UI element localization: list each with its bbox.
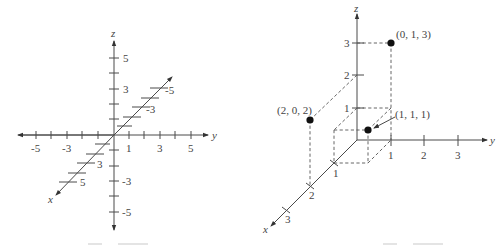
x-tick-label: 2: [309, 189, 315, 201]
point-0-1-3: [387, 39, 394, 46]
y-tick-label: 1: [126, 142, 132, 154]
point-2-0-2: [306, 116, 313, 123]
pointer-arrow: [374, 117, 395, 128]
z-tick-label: 1: [344, 102, 350, 114]
z-tick-label: 2: [344, 69, 350, 81]
caption-fragment: [88, 243, 102, 245]
y-tick-label: 5: [188, 142, 194, 154]
y-tick-label: 2: [421, 149, 427, 161]
x-tick-label: 1: [333, 167, 339, 179]
caption-fragment: [413, 243, 443, 245]
z-tick-label: 3: [344, 37, 350, 49]
z-tick-label: -3: [122, 175, 132, 187]
y-tick-label: 3: [157, 142, 163, 154]
x-axis: [271, 140, 357, 226]
y-tick-label: 1: [388, 149, 394, 161]
z-axis-label: z: [110, 27, 116, 39]
z-axis-ticks: [352, 43, 364, 108]
left-figure: -5 -3 1 3 5 y 5 3 -3 -5 z: [18, 27, 217, 230]
point-label: (2, 0, 2): [277, 104, 312, 117]
y-axis-label: y: [211, 129, 217, 141]
x-tick-label: 3: [97, 158, 103, 170]
x-tick-label: -3: [146, 103, 156, 115]
caption-fragment: [383, 243, 397, 245]
x-tick-label: -5: [165, 84, 175, 96]
figure-canvas: -5 -3 1 3 5 y 5 3 -3 -5 z: [0, 0, 499, 247]
point-label: (1, 1, 1): [395, 108, 430, 121]
caption-fragment: [118, 243, 148, 245]
point-1-1-1: [364, 126, 371, 133]
right-figure: z y x 1 2 3 1 2 3 1 2 3: [262, 2, 495, 235]
point-label: (0, 1, 3): [396, 28, 431, 41]
x-tick-label: 3: [285, 213, 291, 225]
y-tick-label: 3: [455, 149, 461, 161]
projection-lines: [310, 43, 391, 186]
y-tick-label: -5: [31, 142, 41, 154]
x-axis-label: x: [47, 193, 53, 205]
x-tick-label: 5: [80, 176, 86, 188]
z-tick-label: 3: [123, 83, 129, 95]
z-tick-label: 5: [123, 52, 129, 64]
z-tick-label: -5: [122, 206, 132, 218]
y-tick-label: -3: [62, 142, 72, 154]
y-axis-label: y: [489, 134, 495, 146]
z-axis-label: z: [353, 2, 359, 14]
x-axis-label: x: [262, 223, 268, 235]
